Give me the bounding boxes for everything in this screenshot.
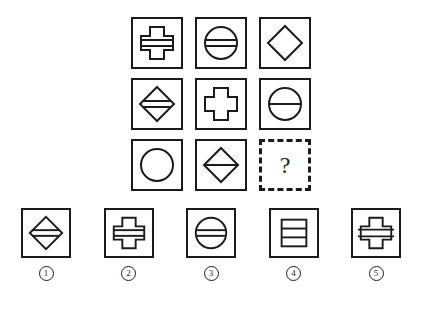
option-number-label: 2 — [121, 266, 136, 281]
question-mark: ? — [280, 153, 291, 177]
puzzle-container: ? 1 — [0, 0, 421, 309]
matrix-cell-r1c2 — [190, 13, 252, 73]
diamond-icon — [264, 22, 306, 64]
diamond-with-line-icon — [200, 144, 242, 186]
matrix-grid: ? — [126, 13, 316, 195]
cell-frame — [131, 78, 183, 130]
cell-frame — [131, 17, 183, 69]
option-frame — [21, 208, 71, 258]
square-with-two-lines-icon — [274, 213, 314, 253]
cross-icon — [200, 83, 242, 125]
matrix-cell-r3c3-missing[interactable]: ? — [254, 135, 316, 195]
option-number-label: 1 — [39, 266, 54, 281]
answer-option-3[interactable]: 3 — [181, 208, 241, 281]
cell-frame — [131, 139, 183, 191]
cell-frame — [259, 78, 311, 130]
circle-icon — [136, 144, 178, 186]
missing-cell-frame: ? — [259, 139, 311, 191]
diamond-with-band-icon — [136, 83, 178, 125]
cross-with-band-icon — [136, 22, 178, 64]
option-number-label: 3 — [204, 266, 219, 281]
matrix-cell-r1c1 — [126, 13, 188, 73]
answer-option-4[interactable]: 4 — [264, 208, 324, 281]
option-frame — [269, 208, 319, 258]
circle-with-line-icon — [264, 83, 306, 125]
answer-options: 1 2 — [16, 208, 406, 281]
circle-with-band-icon — [200, 22, 242, 64]
option-number-label: 4 — [286, 266, 301, 281]
option-frame — [351, 208, 401, 258]
cell-frame — [195, 17, 247, 69]
answer-option-1[interactable]: 1 — [16, 208, 76, 281]
option-frame — [186, 208, 236, 258]
diamond-with-band-icon — [26, 213, 66, 253]
cell-frame — [195, 139, 247, 191]
circle-with-band-icon — [191, 213, 231, 253]
option-frame — [104, 208, 154, 258]
option-number-label: 5 — [369, 266, 384, 281]
matrix-cell-r2c2 — [190, 74, 252, 134]
matrix-cell-r3c1 — [126, 135, 188, 195]
cross-with-band-icon — [109, 213, 149, 253]
answer-option-2[interactable]: 2 — [99, 208, 159, 281]
cell-frame — [259, 17, 311, 69]
matrix-cell-r2c1 — [126, 74, 188, 134]
matrix-cell-r1c3 — [254, 13, 316, 73]
cell-frame — [195, 78, 247, 130]
matrix-cell-r3c2 — [190, 135, 252, 195]
matrix-cell-r2c3 — [254, 74, 316, 134]
answer-option-5[interactable]: 5 — [346, 208, 406, 281]
cross-with-wide-band-icon — [356, 213, 396, 253]
